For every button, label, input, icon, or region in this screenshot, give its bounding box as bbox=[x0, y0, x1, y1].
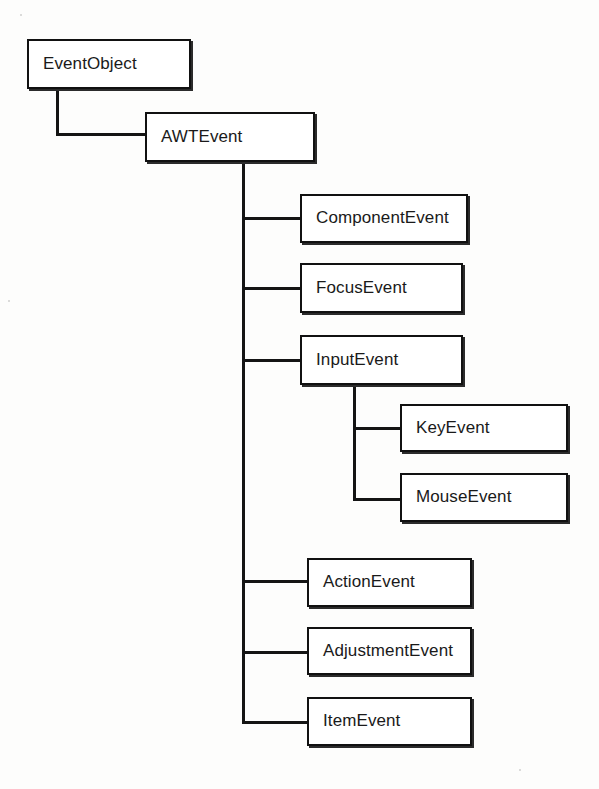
branch-to-mouseevent bbox=[353, 498, 402, 501]
class-label-eventobject: EventObject bbox=[29, 55, 137, 74]
class-box-mouseevent[interactable]: MouseEvent bbox=[400, 473, 568, 522]
scan-speck bbox=[20, 14, 22, 16]
scan-speck bbox=[8, 300, 10, 302]
class-box-eventobject[interactable]: EventObject bbox=[27, 39, 191, 89]
scan-speck bbox=[519, 769, 521, 771]
class-box-awtevent[interactable]: AWTEvent bbox=[145, 112, 315, 162]
class-label-keyevent: KeyEvent bbox=[402, 419, 490, 438]
connector-eventobject-to-awtevent bbox=[56, 133, 147, 136]
branch-to-adjustmentevent bbox=[242, 651, 309, 654]
class-label-inputevent: InputEvent bbox=[302, 351, 398, 370]
branch-to-focusevent bbox=[242, 287, 302, 290]
class-label-componentevent: ComponentEvent bbox=[302, 209, 449, 228]
class-hierarchy-diagram: EventObject AWTEvent ComponentEvent Focu… bbox=[0, 0, 599, 789]
class-label-focusevent: FocusEvent bbox=[302, 279, 407, 298]
branch-to-actionevent bbox=[242, 580, 309, 583]
class-label-itemevent: ItemEvent bbox=[309, 712, 400, 731]
connector-eventobject-drop bbox=[56, 89, 59, 136]
class-box-actionevent[interactable]: ActionEvent bbox=[307, 558, 472, 607]
class-label-adjustmentevent: AdjustmentEvent bbox=[309, 642, 453, 661]
class-box-focusevent[interactable]: FocusEvent bbox=[300, 263, 463, 313]
class-label-actionevent: ActionEvent bbox=[309, 573, 415, 592]
class-box-inputevent[interactable]: InputEvent bbox=[300, 335, 463, 385]
class-box-keyevent[interactable]: KeyEvent bbox=[400, 404, 568, 452]
branch-to-inputevent bbox=[242, 359, 302, 362]
trunk-inputevent bbox=[353, 385, 356, 501]
class-label-mouseevent: MouseEvent bbox=[402, 488, 512, 507]
class-box-adjustmentevent[interactable]: AdjustmentEvent bbox=[307, 627, 472, 675]
class-label-awtevent: AWTEvent bbox=[147, 128, 242, 147]
branch-to-componentevent bbox=[242, 217, 302, 220]
trunk-awtevent bbox=[242, 162, 245, 724]
branch-to-keyevent bbox=[353, 427, 402, 430]
class-box-itemevent[interactable]: ItemEvent bbox=[307, 697, 472, 746]
branch-to-itemevent bbox=[242, 721, 309, 724]
class-box-componentevent[interactable]: ComponentEvent bbox=[300, 194, 468, 243]
